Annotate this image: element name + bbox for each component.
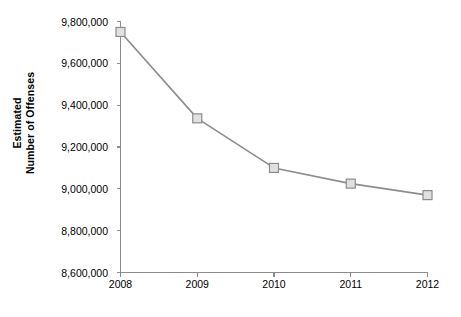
axis-ticks [117, 22, 428, 277]
axes [121, 22, 428, 273]
data-point-marker [116, 27, 125, 36]
data-markers [116, 27, 432, 199]
data-point-marker [423, 191, 432, 200]
data-point-marker [193, 114, 202, 123]
data-point-marker [270, 163, 279, 172]
plot-area [0, 0, 461, 317]
data-point-marker [346, 179, 355, 188]
line-chart: Estimated Number of Offenses 8,600,0008,… [0, 0, 461, 317]
